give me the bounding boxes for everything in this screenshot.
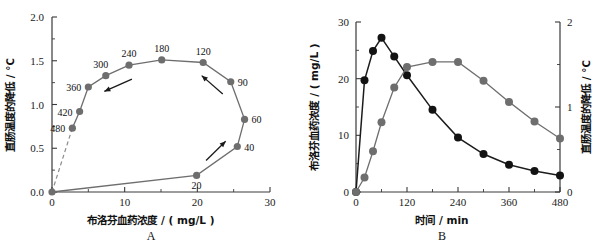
panel-b-datapoint: [403, 63, 411, 71]
panel-a-datapoint: [85, 83, 92, 90]
panel-a-datapoint: [241, 116, 248, 123]
panel-a-datapoint: [69, 125, 76, 132]
panel-b-datapoint: [378, 34, 386, 42]
panel-a-datapoint: [125, 62, 132, 69]
panel-a-datapoint: [158, 56, 165, 63]
panel-a-point-label: 40: [244, 142, 254, 153]
panel-a-series: [48, 56, 248, 195]
panel-b-datapoint: [378, 118, 386, 126]
panel-b-datapoint: [454, 58, 462, 66]
panel-a-datapoint: [102, 72, 109, 79]
panel-a-datapoint: [48, 188, 55, 195]
panel-b-y2ticklabel: 1: [567, 101, 573, 113]
panel-b-xticklabel: 120: [399, 196, 416, 208]
panel-b-y2ticklabel: 2: [567, 16, 573, 28]
panel-a-loop-line: [52, 60, 245, 192]
panel-b-datapoint: [390, 83, 398, 91]
panel-a-letter: A: [147, 229, 156, 242]
panel-a-point-label: 420: [58, 107, 73, 118]
panel-b-datapoint: [361, 174, 369, 182]
panel-b-yticklabel: 0: [344, 186, 350, 198]
panel-a-point-label: 240: [122, 48, 137, 59]
panel-b-y2ticklabel: 0: [567, 186, 573, 198]
panel-b-y2axis-title: 直肠温度的降低 / ℃: [580, 60, 592, 154]
panel-b-datapoint: [505, 98, 513, 106]
panel-b-datapoint: [556, 172, 564, 180]
panel-b-xaxis-title: 时间 / min: [415, 214, 468, 226]
panel-b-datapoint: [556, 134, 564, 142]
panel-b-series: [352, 34, 564, 196]
panel-b-svg: 01202403604800102030012 时间 / min B 布洛芬血药…: [302, 0, 605, 242]
panel-b-datapoint: [505, 161, 513, 169]
panel-b-yticklabel: 20: [338, 73, 350, 85]
panel-b-datapoint: [454, 134, 462, 142]
panel-b-datapoint: [369, 47, 377, 55]
panel-b-datapoint: [531, 117, 539, 125]
panel-a-datapoint: [200, 59, 207, 66]
panel-b-series-line-1: [356, 62, 560, 192]
panel-a-xticklabel: 0: [49, 196, 55, 208]
panel-a-point-label: 60: [252, 114, 262, 125]
panel-a-datapoint: [193, 172, 200, 179]
panel-b-datapoint: [429, 58, 437, 66]
panel-b-datapoint: [480, 77, 488, 85]
panel-b-datapoint: [361, 76, 369, 84]
panel-b-yaxis-title: 布洛芬血药浓度 / ( mg/L ): [308, 43, 320, 170]
panel-a-xaxis-title: 布洛芬血药浓度 / ( mg/L ): [87, 214, 214, 226]
panel-a-dashed-return-segment: [52, 128, 72, 192]
panel-a-hysteresis-chart: 01020300.00.51.01.52.0 20406090120180240…: [0, 0, 302, 242]
panel-b-letter: B: [438, 229, 446, 242]
panel-b-datapoint: [352, 188, 360, 196]
panel-a-point-label: 480: [50, 123, 65, 134]
panel-a-point-labels: 20406090120180240300360420480: [50, 43, 261, 192]
panel-a-yticklabel: 1.0: [30, 99, 44, 111]
panel-a-yticklabel: 0.5: [30, 142, 44, 154]
panel-b-timecourse-chart: 01202403604800102030012 时间 / min B 布洛芬血药…: [302, 0, 605, 242]
panel-b-datapoint: [429, 106, 437, 114]
panel-a-xticklabel: 10: [119, 196, 131, 208]
panel-a-yaxis-title: 直肠温度的降低 / ℃: [4, 58, 16, 152]
panel-a-xticklabel: 20: [192, 196, 204, 208]
panel-a-datapoint: [227, 78, 234, 85]
panel-b-datapoint: [369, 147, 377, 155]
panel-b-xticklabel: 0: [353, 196, 359, 208]
panel-a-datapoint: [234, 143, 241, 150]
panel-b-yticklabel: 10: [338, 129, 350, 141]
panel-b-xticklabel: 240: [450, 196, 467, 208]
panel-b-datapoint: [480, 150, 488, 158]
panel-a-point-label: 180: [154, 43, 169, 54]
panel-a-yticklabel: 0.0: [30, 186, 44, 198]
panel-b-axes: 01202403604800102030012: [338, 16, 573, 208]
panel-b-datapoint: [531, 167, 539, 175]
panel-a-yticklabel: 1.5: [30, 55, 44, 67]
panel-a-point-label: 90: [238, 77, 248, 88]
panel-a-yticklabel: 2.0: [30, 11, 44, 23]
panel-b-datapoint: [390, 53, 398, 61]
panel-a-point-label: 120: [196, 46, 211, 57]
panel-a-svg: 01020300.00.51.01.52.0 20406090120180240…: [0, 0, 302, 242]
panel-a-xticklabel: 30: [265, 196, 277, 208]
panel-a-arrows: [104, 76, 225, 161]
panel-a-point-label: 300: [93, 59, 108, 70]
figure-container: 01020300.00.51.01.52.0 20406090120180240…: [0, 0, 605, 242]
panel-b-xticklabel: 360: [501, 196, 518, 208]
panel-a-point-label: 20: [192, 180, 202, 191]
panel-a-point-label: 360: [66, 82, 81, 93]
panel-b-yticklabel: 30: [338, 16, 350, 28]
panel-a-datapoint: [76, 108, 83, 115]
